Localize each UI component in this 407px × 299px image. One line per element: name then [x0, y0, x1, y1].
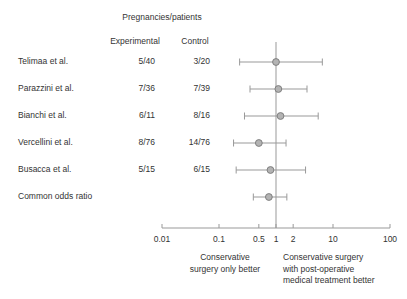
- column-group-title: Pregnancies/patients: [100, 12, 224, 22]
- row-label-study: Common odds ratio: [18, 191, 138, 201]
- x-axis-tick-label: 100: [370, 234, 407, 244]
- point-estimate-marker: [265, 194, 272, 201]
- column-header-experimental: Experimental: [100, 36, 170, 46]
- point-estimate-marker: [255, 140, 262, 147]
- study-estimate: [250, 86, 307, 93]
- point-estimate-marker: [267, 167, 274, 174]
- cell-experimental: 6/11: [105, 110, 155, 120]
- caption-right-line3: medical treatment better: [283, 275, 407, 287]
- x-axis-tick-label: 2: [273, 234, 313, 244]
- cell-experimental: 5/15: [105, 164, 155, 174]
- cell-control: 3/20: [164, 56, 210, 66]
- caption-left-line2: surgery only better: [175, 264, 275, 276]
- study-estimate: [244, 113, 318, 120]
- cell-experimental: 5/40: [105, 56, 155, 66]
- caption-left-line1: Conservative: [175, 252, 275, 264]
- x-axis-tick-label: 10: [313, 234, 353, 244]
- point-estimate-marker: [275, 86, 282, 93]
- cell-control: 14/76: [164, 137, 210, 147]
- point-estimate-marker: [277, 113, 284, 120]
- cell-experimental: 8/76: [105, 137, 155, 147]
- caption-left: Conservativesurgery only better: [175, 252, 275, 275]
- caption-right-line2: with post-operative: [283, 264, 407, 276]
- cell-experimental: 7/36: [105, 83, 155, 93]
- column-header-control: Control: [172, 36, 218, 46]
- study-estimate: [234, 140, 286, 147]
- x-axis-tick-label: 0.01: [142, 234, 182, 244]
- caption-right-line1: Conservative surgery: [283, 252, 407, 264]
- cell-control: 6/15: [164, 164, 210, 174]
- cell-control: 8/16: [164, 110, 210, 120]
- x-axis-tick-label: 0.1: [199, 234, 239, 244]
- cell-control: 7/39: [164, 83, 210, 93]
- study-estimate: [236, 167, 305, 174]
- summary-estimate: [253, 194, 287, 201]
- study-estimate: [240, 59, 323, 66]
- caption-right: Conservative surgerywith post-operativem…: [283, 252, 407, 287]
- point-estimate-marker: [273, 59, 280, 66]
